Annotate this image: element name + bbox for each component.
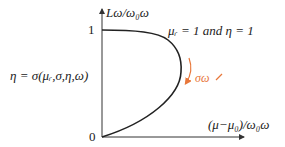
impedance-curve <box>102 30 181 137</box>
increase-arrow-icon <box>216 74 222 80</box>
origin-label: 0 <box>89 130 96 143</box>
y-axis-label: Lω/ω₀ω <box>106 6 149 19</box>
x-axis-label: (μ−μ₀)/ω₀ω <box>208 118 270 131</box>
trend-label: σω <box>195 72 209 84</box>
eta-definition: η = σ(μᵣ,σ,η,ω) <box>10 69 88 82</box>
trend-arrow-icon <box>186 58 191 83</box>
condition-label: μᵣ = 1 and η = 1 <box>168 24 254 37</box>
y-tick-one: 1 <box>88 23 95 36</box>
